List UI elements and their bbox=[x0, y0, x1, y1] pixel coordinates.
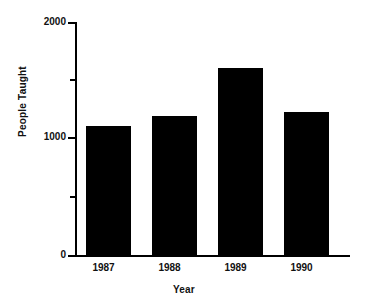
y-tick-2000: 2000 bbox=[18, 22, 66, 23]
x-axis-title: Year bbox=[0, 284, 368, 295]
bar-1987 bbox=[86, 126, 131, 256]
x-tick-label-1987: 1987 bbox=[76, 262, 131, 273]
bar-1990 bbox=[284, 112, 329, 256]
bar-chart: People Taught 2000 1000 0 1987 1988 1989… bbox=[0, 0, 368, 306]
y-tick-label-1000: 1000 bbox=[22, 131, 66, 142]
x-tick-label-1990: 1990 bbox=[274, 262, 329, 273]
chart-title bbox=[48, 0, 328, 3]
x-tick-label-1989: 1989 bbox=[208, 262, 263, 273]
y-tick-label-0: 0 bbox=[22, 249, 66, 260]
bar-1988 bbox=[152, 116, 197, 256]
plot-area bbox=[76, 22, 350, 256]
bar-1989 bbox=[218, 68, 263, 256]
y-tick-0: 0 bbox=[18, 255, 66, 256]
y-tick-label-2000: 2000 bbox=[22, 16, 66, 27]
y-tick-1000: 1000 bbox=[18, 137, 66, 138]
x-tick-label-1988: 1988 bbox=[142, 262, 197, 273]
